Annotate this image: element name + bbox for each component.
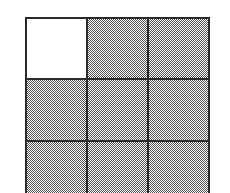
grid-cell-r3c1[interactable]	[27, 142, 86, 193]
grid-cell-r2c2[interactable]	[88, 80, 147, 139]
grid-cell-r3c3[interactable]	[149, 142, 208, 193]
grid-cell-r2c3[interactable]	[149, 80, 208, 139]
grid-cell-r1c1[interactable]	[27, 19, 86, 78]
grid-3x3	[25, 17, 210, 193]
grid-cell-r1c3[interactable]	[149, 19, 208, 78]
figure-canvas	[0, 0, 230, 193]
grid-cell-r3c2[interactable]	[88, 142, 147, 193]
grid-cell-r2c1[interactable]	[27, 80, 86, 139]
grid-cell-r1c2[interactable]	[88, 19, 147, 78]
